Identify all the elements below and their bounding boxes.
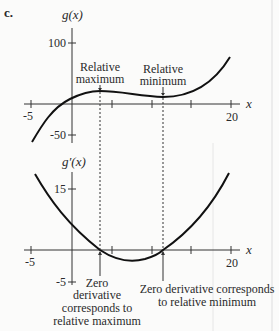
top-ytick-100: 100 [48,36,66,50]
bottom-xtick-20: 20 [226,256,238,270]
bottom-x-label: x [245,242,252,257]
bottom-ytick-neg5: -5 [56,275,66,289]
top-x-label: x [245,96,252,111]
relative-min-label-2: minimum [140,74,187,88]
relative-max-label-2: maximum [76,72,125,86]
top-y-label: g(x) [62,7,83,22]
part-label: c. [4,5,13,20]
bottom-graph: g′(x) x 15 -5 -5 20 Zero derivative corr… [24,154,275,328]
top-ytick-neg50: -50 [50,128,66,142]
zero-max-label-4: relative maximum [53,314,141,328]
bottom-xtick-neg5: -5 [25,255,35,269]
zero-max-label-3: corresponds to [62,301,132,315]
bottom-ytick-15: 15 [54,182,66,196]
zero-min-label-2: to relative minimum [158,295,257,309]
top-xtick-20: 20 [226,110,238,124]
zero-max-label-2: derivative [73,288,121,302]
bottom-y-label: g′(x) [62,154,86,169]
arrow-down-icon [161,93,165,96]
top-graph: g(x) x 100 -50 -5 20 Relative maximum Re… [23,7,252,143]
derivative-diagram: c. g(x) x 100 -50 -5 20 Relative maximum… [0,0,279,331]
top-xtick-neg5: -5 [23,109,33,123]
zero-min-label-1: Zero derivative corresponds [140,282,275,296]
